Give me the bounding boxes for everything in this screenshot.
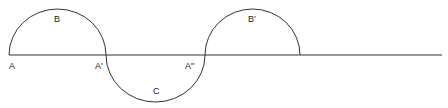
label-a: A bbox=[9, 61, 15, 71]
label-a-double-prime: A" bbox=[185, 61, 194, 71]
wave-diagram: A A' A" B C B' bbox=[0, 0, 448, 108]
label-b: B bbox=[54, 14, 60, 24]
label-c: C bbox=[153, 86, 160, 96]
label-a-prime: A' bbox=[95, 61, 103, 71]
label-b-prime: B' bbox=[248, 14, 256, 24]
